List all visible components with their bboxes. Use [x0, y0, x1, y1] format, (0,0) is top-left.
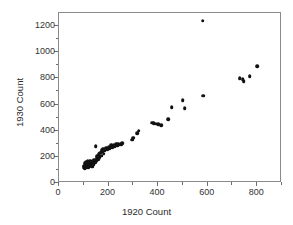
x-tick-mark	[108, 182, 109, 186]
y-tick-mark-minor	[56, 169, 59, 170]
data-point	[183, 107, 187, 111]
y-tick-label: 1200	[35, 20, 55, 30]
x-tick-mark-minor	[132, 182, 133, 185]
data-point	[120, 141, 124, 145]
x-tick-mark-minor	[231, 182, 232, 185]
x-tick-mark	[58, 182, 59, 186]
x-tick-mark-minor	[182, 182, 183, 185]
x-tick-mark	[157, 182, 158, 186]
data-point	[201, 19, 205, 23]
x-tick-mark-minor	[281, 182, 282, 185]
data-point	[181, 99, 185, 103]
x-tick-mark	[207, 182, 208, 186]
x-tick-label: 800	[249, 187, 264, 197]
data-point	[255, 64, 259, 68]
data-point	[137, 129, 141, 133]
x-tick-mark-minor	[83, 182, 84, 185]
x-axis-title: 1920 Count	[0, 206, 293, 217]
scatter-chart-figure: 020040060080010001200 0200400600800 1920…	[0, 0, 293, 225]
x-tick-label: 200	[100, 187, 115, 197]
data-point	[170, 106, 174, 110]
y-tick-mark-minor	[56, 117, 59, 118]
y-tick-label: 600	[40, 99, 55, 109]
y-tick-label: 0	[50, 177, 55, 187]
data-point	[132, 136, 136, 140]
y-tick-label: 800	[40, 72, 55, 82]
y-tick-mark-minor	[56, 38, 59, 39]
x-tick-label: 400	[150, 187, 165, 197]
data-point	[242, 79, 246, 83]
y-tick-label: 1000	[35, 46, 55, 56]
data-point	[159, 123, 163, 127]
data-point	[94, 144, 98, 148]
data-point	[166, 117, 170, 121]
y-tick-mark-minor	[56, 64, 59, 65]
y-tick-label: 200	[40, 151, 55, 161]
y-tick-mark-minor	[56, 143, 59, 144]
y-axis-title: 1930 Count	[14, 48, 25, 158]
x-tick-label: 0	[55, 187, 60, 197]
y-tick-label: 400	[40, 125, 55, 135]
data-points-layer	[59, 13, 282, 183]
data-point	[201, 94, 205, 98]
plot-area	[58, 12, 281, 182]
x-tick-mark	[256, 182, 257, 186]
data-point	[248, 74, 252, 78]
x-tick-label: 600	[199, 187, 214, 197]
y-tick-mark-minor	[56, 90, 59, 91]
